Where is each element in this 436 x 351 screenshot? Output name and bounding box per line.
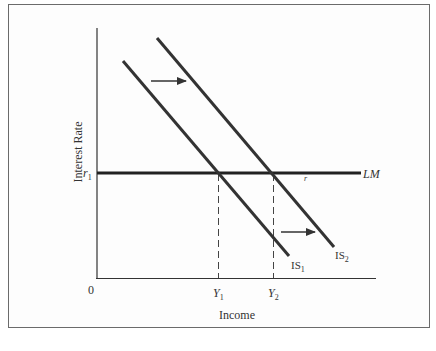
is1-curve [123, 61, 289, 256]
y1-tick-label: Y1 [213, 286, 224, 302]
x-axis-title: Income [219, 308, 255, 322]
lm-label: LM [362, 167, 381, 181]
y2-tick-label: Y2 [268, 286, 279, 302]
origin-label: 0 [88, 283, 94, 297]
is2-label: IS2 [335, 249, 349, 264]
is1-label: IS1 [291, 259, 305, 274]
is2-curve [157, 38, 334, 247]
is-lm-diagram: LM r IS1 IS2 r1 0 Y1 Y2 Income Interest … [0, 0, 436, 351]
r-annotation: r [304, 174, 308, 183]
y-axis-title: Interest Rate [71, 122, 85, 183]
